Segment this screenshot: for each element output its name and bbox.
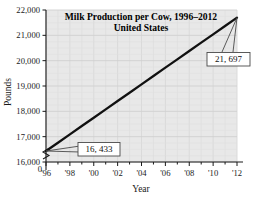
chart-figure: 16,00017,00018,00019,00020,00021,00022,0…	[0, 0, 255, 199]
x-axis-tick-label: '04	[136, 168, 147, 178]
chart-title: Milk Production per Cow, 1996–2012	[65, 11, 218, 22]
y-axis-tick-label: 22,000	[16, 5, 40, 15]
x-axis-tick-label: '00	[89, 168, 99, 178]
annotation-label-end: 21, 697	[215, 54, 243, 64]
x-axis-tick-label: '96	[41, 168, 52, 178]
x-axis-tick-label: '10	[208, 168, 218, 178]
x-axis-tick-label: '06	[160, 168, 171, 178]
y-axis-tick-label: 18,000	[16, 106, 40, 116]
y-axis-zero-label: 0	[38, 164, 42, 174]
y-axis-tick-label: 16,000	[16, 157, 40, 167]
annotation-callout-start: 16, 433	[78, 143, 120, 157]
x-axis-title: Year	[132, 184, 150, 194]
y-axis-tick-label: 21,000	[16, 30, 40, 40]
chart-subtitle: United States	[114, 22, 169, 33]
x-axis-tick-label: '08	[184, 168, 194, 178]
annotation-label-start: 16, 433	[86, 144, 114, 154]
x-axis-tick-label: '98	[65, 168, 75, 178]
y-axis-tick-label: 19,000	[16, 81, 40, 91]
x-axis-tick-label: '02	[113, 168, 123, 178]
y-axis-tick-label: 20,000	[16, 56, 40, 66]
y-axis-tick-label: 17,000	[16, 132, 40, 142]
annotation-callout-end: 21, 697	[207, 53, 250, 67]
x-axis-tick-label: '12	[232, 168, 242, 178]
y-axis-title: Pounds	[3, 78, 13, 106]
